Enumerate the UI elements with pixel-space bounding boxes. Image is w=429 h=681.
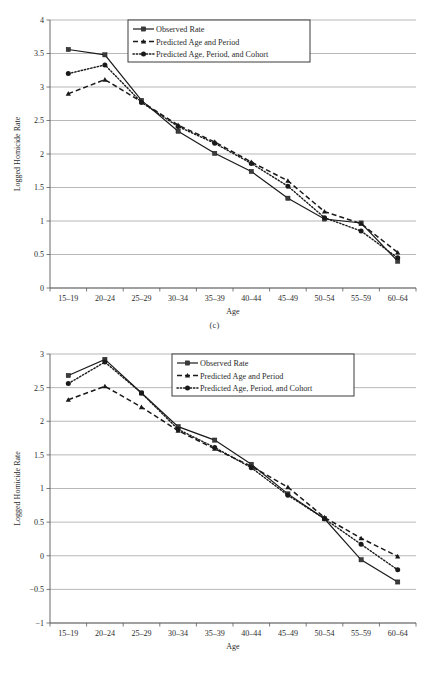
legend-marker-circle [141,52,146,57]
x-tick-label: 45–49 [278,629,298,638]
x-tick-label: 40–44 [241,294,261,303]
y-tick-label: 3.5 [34,49,44,58]
chart-d-plot: −1−0.500.511.522.5315–1920–2425–2930–343… [0,340,429,655]
legend-label-2: Predicted Age, Period, and Cohort [156,50,269,59]
y-tick-label: 0 [40,284,44,293]
x-tick-label: 55–59 [351,294,371,303]
legend-marker-square [141,27,145,31]
x-tick-label: 15–19 [58,294,78,303]
x-tick-label: 25–29 [132,629,152,638]
legend-label-0: Observed Rate [200,359,249,368]
y-tick-label: 0 [40,552,44,561]
series-marker-circle [102,62,107,67]
x-tick-label: 20–24 [95,629,115,638]
x-tick-label: 35–39 [205,629,225,638]
x-tick-label: 30–34 [168,629,188,638]
series-marker-circle [176,427,181,432]
series-marker-circle [176,124,181,129]
x-axis-title: Age [226,642,240,651]
series-marker-triangle [285,178,290,183]
y-tick-label: 3 [40,83,44,92]
series-marker-circle [249,161,254,166]
series-line-2 [68,65,397,258]
x-tick-label: 50–54 [315,294,335,303]
series-marker-circle [322,215,327,220]
series-marker-square [66,47,70,51]
y-tick-label: 0.5 [34,250,44,259]
series-marker-square [286,196,290,200]
series-marker-triangle [102,384,107,389]
y-tick-label: 2.5 [34,116,44,125]
series-marker-triangle [102,77,107,82]
x-axis-title: Age [226,307,240,316]
series-marker-circle [66,381,71,386]
figure-d: −1−0.500.511.522.5315–1920–2425–2930–343… [0,340,429,681]
series-marker-circle [212,445,217,450]
series-marker-circle [139,391,144,396]
legend-marker-circle [185,386,190,391]
series-marker-square [103,53,107,57]
y-tick-label: 0.5 [34,518,44,527]
series-marker-square [66,373,70,377]
series-marker-square [213,438,217,442]
series-marker-circle [395,255,400,260]
series-marker-square [176,129,180,133]
series-marker-circle [249,465,254,470]
series-marker-circle [102,360,107,365]
y-tick-label: 3 [40,350,44,359]
x-tick-label: 50–54 [315,629,335,638]
x-tick-label: 55–59 [351,629,371,638]
y-tick-label: 2.5 [34,384,44,393]
y-axis-title: Logged Homicide Rate [13,451,22,526]
chart-d-svg: −1−0.500.511.522.5315–1920–2425–2930–343… [0,340,429,655]
figure-c-caption: (c) [0,320,429,330]
series-marker-circle [359,542,364,547]
y-tick-label: 1 [40,217,44,226]
series-marker-circle [66,71,71,76]
y-tick-label: 4 [40,16,44,25]
x-tick-label: 30–34 [168,294,188,303]
legend-label-2: Predicted Age, Period, and Cohort [200,384,313,393]
series-marker-circle [285,493,290,498]
y-tick-label: 2 [40,417,44,426]
y-tick-label: 1 [40,484,44,493]
y-axis-title: Logged Homicide Rate [13,116,22,191]
series-marker-triangle [322,209,327,214]
x-tick-label: 45–49 [278,294,298,303]
x-tick-label: 60–64 [388,629,408,638]
x-tick-label: 35–39 [205,294,225,303]
legend-label-0: Observed Rate [156,25,205,34]
series-marker-circle [395,567,400,572]
x-tick-label: 15–19 [58,629,78,638]
x-tick-label: 60–64 [388,294,408,303]
series-marker-circle [322,516,327,521]
x-tick-label: 40–44 [241,629,261,638]
y-tick-label: 2 [40,150,44,159]
series-marker-circle [359,229,364,234]
series-marker-circle [212,141,217,146]
chart-c-plot: 00.511.522.533.5415–1920–2425–2930–3435–… [0,0,429,320]
x-tick-label: 20–24 [95,294,115,303]
chart-c-svg: 00.511.522.533.5415–1920–2425–2930–3435–… [0,0,429,320]
y-tick-label: 1.5 [34,183,44,192]
y-tick-label: 1.5 [34,451,44,460]
series-marker-circle [139,100,144,105]
series-marker-square [396,580,400,584]
legend-label-1: Predicted Age and Period [156,38,239,47]
x-tick-label: 25–29 [132,294,152,303]
series-marker-square [249,169,253,173]
series-line-1 [68,386,397,556]
y-tick-label: −1 [35,619,44,628]
series-marker-square [359,558,363,562]
series-marker-triangle [139,405,144,410]
series-line-0 [68,49,397,261]
legend-label-1: Predicted Age and Period [200,372,283,381]
legend-marker-square [185,361,189,365]
series-marker-circle [285,184,290,189]
series-marker-triangle [285,485,290,490]
y-tick-label: −0.5 [29,585,44,594]
series-marker-square [213,151,217,155]
figure-c: 00.511.522.533.5415–1920–2425–2930–3435–… [0,0,429,340]
